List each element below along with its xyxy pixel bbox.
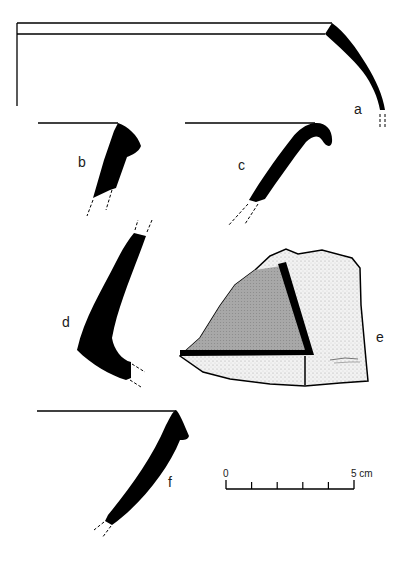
sherd-b-profile	[38, 123, 141, 216]
label-e: e	[376, 330, 384, 344]
sherd-e-fragment	[180, 249, 368, 386]
sherd-a-profile	[17, 23, 385, 128]
sherd-c-profile	[185, 123, 332, 226]
label-d: d	[62, 315, 70, 329]
label-b: b	[78, 155, 86, 169]
scale-end-label: 5 cm	[351, 469, 373, 479]
profile-drawing	[0, 0, 406, 566]
label-f: f	[168, 475, 172, 489]
sherd-d-profile	[77, 220, 152, 387]
label-a: a	[354, 102, 362, 116]
label-c: c	[238, 158, 245, 172]
sherd-f-profile	[37, 410, 189, 538]
scale-start-label: 0	[223, 469, 229, 479]
scale-bar	[226, 480, 354, 489]
